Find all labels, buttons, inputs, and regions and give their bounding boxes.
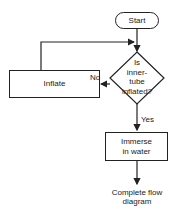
end-line-2: diagram: [107, 197, 167, 206]
start-label: Start: [129, 16, 146, 25]
inflate-process-box: Inflate: [9, 70, 100, 98]
start-terminal: Start: [115, 12, 159, 29]
connector-lines: [0, 0, 179, 210]
immerse-line-2: in water: [121, 147, 152, 157]
immerse-line-1: Immerse: [121, 137, 152, 147]
decision-line-4: inflated?: [117, 87, 157, 97]
no-label: No: [90, 73, 100, 82]
end-line-1: Complete flow: [107, 188, 167, 197]
decision-label: Is inner- tube inflated?: [117, 58, 157, 96]
end-label: Complete flow diagram: [107, 188, 167, 206]
decision-line-3: tube: [117, 77, 157, 87]
decision-line-2: inner-: [117, 68, 157, 78]
yes-label: Yes: [141, 115, 154, 124]
decision-line-1: Is: [117, 58, 157, 68]
immerse-process-box: Immerse in water: [105, 132, 168, 161]
inflate-label: Inflate: [44, 79, 66, 89]
